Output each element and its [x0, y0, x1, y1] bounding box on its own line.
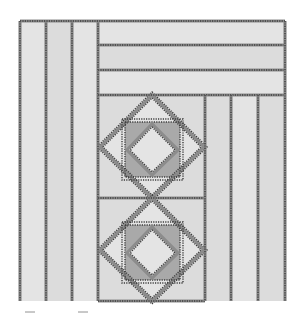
right-border-strips	[205, 95, 285, 301]
top-border-strips	[98, 21, 285, 95]
quilt-diagram	[0, 0, 302, 314]
left-border-strips	[20, 21, 98, 301]
